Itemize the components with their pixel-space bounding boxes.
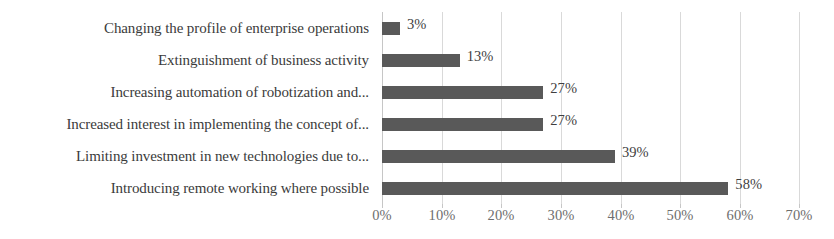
bar-row-5: 58% — [382, 172, 800, 204]
bar-3[interactable] — [382, 118, 543, 131]
x-tick-label-2: 20% — [488, 207, 515, 224]
bar-chart: Changing the profile of enterprise opera… — [0, 0, 834, 239]
x-tick-label-4: 40% — [608, 207, 635, 224]
bar-value-label-4: 39% — [622, 144, 649, 161]
bar-row-2: 27% — [382, 76, 800, 108]
bar-2[interactable] — [382, 86, 543, 99]
category-label-1: Extinguishment of business activity — [158, 44, 369, 76]
bar-value-label-1: 13% — [467, 48, 494, 65]
x-tick-label-7: 70% — [786, 207, 813, 224]
bar-row-3: 27% — [382, 108, 800, 140]
bar-row-4: 39% — [382, 140, 800, 172]
category-axis-labels: Changing the profile of enterprise opera… — [0, 12, 376, 204]
value-axis-labels: 0% 10% 20% 30% 40% 50% 60% 70% — [0, 207, 834, 233]
bar-value-label-3: 27% — [550, 112, 577, 129]
bar-value-label-5: 58% — [735, 176, 762, 193]
bar-1[interactable] — [382, 54, 460, 67]
bar-row-0: 3% — [382, 12, 800, 44]
x-tick-label-6: 60% — [727, 207, 754, 224]
bar-value-label-2: 27% — [550, 80, 577, 97]
x-tick-label-0: 0% — [372, 207, 392, 224]
bar-row-1: 13% — [382, 44, 800, 76]
x-tick-label-5: 50% — [667, 207, 694, 224]
bar-value-label-0: 3% — [407, 16, 427, 33]
category-label-5: Introducing remote working where possibl… — [111, 172, 369, 204]
category-label-2: Increasing automation of robotization an… — [111, 76, 369, 108]
category-label-0: Changing the profile of enterprise opera… — [104, 12, 369, 44]
category-label-4: Limiting investment in new technologies … — [76, 140, 369, 172]
x-tick-label-3: 30% — [548, 207, 575, 224]
bar-5[interactable] — [382, 182, 728, 195]
bar-0[interactable] — [382, 22, 400, 35]
category-label-3: Increased interest in implementing the c… — [66, 108, 369, 140]
bar-4[interactable] — [382, 150, 615, 163]
x-tick-label-1: 10% — [429, 207, 456, 224]
plot-area: 3% 13% 27% 27% 39% 58% — [382, 12, 800, 204]
